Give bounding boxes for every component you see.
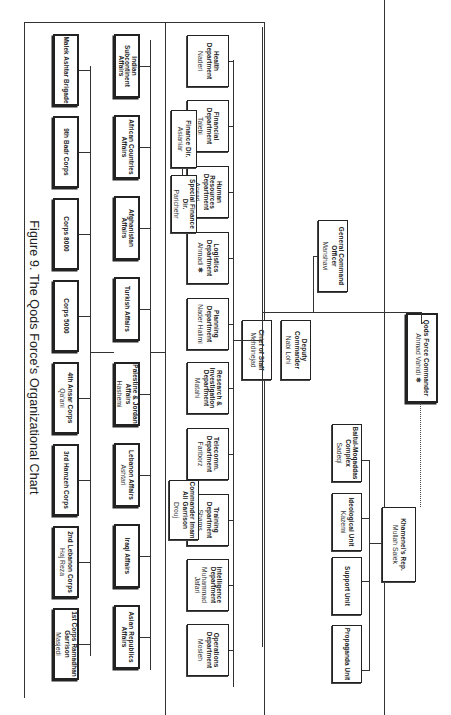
dept-title: Planning Department [205, 299, 218, 349]
corps-title: 4th Ansar Corps [67, 373, 74, 424]
corps-malek-ashtar[interactable]: Malek Ashtar Brigade [53, 34, 79, 106]
connector [234, 340, 262, 341]
khamenei-rep-title: Khamenei's Rep. [400, 518, 407, 571]
dotted-link [420, 403, 421, 507]
deputy-title: Deputy Commander [293, 321, 306, 379]
frame-bottom [24, 22, 25, 698]
dept-title: Logistics Department [205, 233, 218, 283]
department-health[interactable]: Health Department Naderi [187, 35, 229, 87]
connector [79, 316, 91, 317]
khamenei-rep-box[interactable]: Khamenei's Rep. Mullah Saiek [382, 507, 416, 582]
khamenei-unit-support[interactable]: Support Unit [332, 557, 362, 615]
chief-name: Mehdinejad [250, 332, 257, 367]
connector [140, 637, 151, 638]
dept-name: Naderi [197, 51, 204, 71]
connector [151, 352, 165, 353]
imam-ali-garrison-box[interactable]: Commander Imam Ali Garrison Drouj [169, 480, 199, 540]
finance-name: Parichehr [173, 189, 180, 218]
affairs-turkish[interactable]: Turkish Affairs [114, 277, 140, 341]
affairs-afghanistan[interactable]: Afghanistan Affairs [114, 196, 140, 260]
department-operations[interactable]: Operations Department Mosleh [187, 624, 229, 676]
unit-title: Ideological Unit [348, 497, 355, 546]
connector [140, 147, 151, 148]
dept-name: Mosleh [197, 639, 204, 661]
corps-8000[interactable]: Corps 8000 [53, 198, 79, 270]
dept-name: Ahmadi ✱ [197, 243, 204, 274]
dept-name: Muhammad Jafari [194, 560, 208, 610]
dept-title: Training Department [205, 495, 218, 545]
corps-title: Corps 8000 [63, 216, 70, 251]
corps-title: 1st Corps Ramadhan Garrison [63, 610, 76, 678]
affairs-asian-republics[interactable]: Asian Republics Affairs [114, 605, 140, 669]
connector [313, 256, 314, 313]
affairs-iraqi[interactable]: Iraqi Affairs [114, 524, 140, 588]
corps-1st-ramadhan[interactable]: 1st Corps Ramadhan Garrison Masjedi [53, 608, 79, 680]
divider-top [384, 0, 385, 715]
finance-name: Asianiar [177, 127, 184, 152]
connector [229, 585, 234, 586]
dept-name: Nader Halimi [197, 304, 204, 343]
corps-name: Qa'ani [59, 388, 66, 407]
connector [229, 61, 234, 62]
connector [79, 480, 91, 481]
connector [229, 650, 234, 651]
connector [229, 520, 234, 521]
khamenei-unit-propaganda[interactable]: Propaganda Unit [332, 625, 362, 683]
frame-left [25, 22, 265, 23]
corps-9th-badr[interactable]: 9th Badr Corps [53, 116, 79, 188]
connector [362, 460, 370, 461]
dept-title: Intelligence Department [209, 560, 222, 610]
connector [362, 581, 370, 582]
department-logistics[interactable]: Logistics Department Ahmadi ✱ [187, 232, 229, 284]
corps-3rd-hamzeh[interactable]: 3rd Hamzeh Corps [53, 444, 79, 516]
corps-name: Haj Reza [59, 548, 66, 576]
corps-title: 9th Badr Corps [63, 128, 70, 176]
connector [140, 475, 151, 476]
connector [369, 460, 370, 671]
dept-title: Health Department [205, 36, 218, 86]
corps-title: Malek Ashtar Brigade [63, 36, 70, 103]
corps-name: Masjedi [55, 632, 62, 655]
affairs-title: Lebanon Affairs [128, 450, 135, 500]
connector [229, 126, 234, 127]
corps-title: 2nd Lebanon Corps [67, 531, 74, 593]
department-intelligence[interactable]: Intelligence Department Muhammad Jafari [187, 559, 229, 611]
deputy-commander-box[interactable]: Deputy Commander Nabi Lohi [281, 320, 311, 380]
khamenei-unit-baitul-moqaddas[interactable]: Baitul-Moqaddas Complex Sadeqi [332, 424, 362, 482]
commander-box[interactable]: Qods Force Commander Ahmad Vahidi ✱ [406, 313, 438, 403]
chief-of-staff-box[interactable]: Chief of Staff Mehdinejad [242, 320, 272, 380]
connector [233, 60, 234, 687]
affairs-palestine-jordan[interactable]: Palestine & Jordan Affairs Hashemi [114, 362, 140, 426]
corps-2nd-lebanon[interactable]: 2nd Lebanon Corps Haj Reza [53, 526, 79, 598]
corps-4th-ansar[interactable]: 4th Ansar Corps Qa'ani [53, 362, 79, 434]
department-telecomm[interactable]: Telecomm. Department Fariborz [187, 428, 229, 480]
connector [421, 312, 422, 324]
connector [140, 309, 151, 310]
department-planning[interactable]: Planning Department Nader Halimi [187, 298, 229, 350]
connector [362, 670, 370, 671]
affairs-indian-subcontinent[interactable]: Indian Subcontinent Affairs [114, 34, 140, 98]
connector [79, 398, 91, 399]
department-research[interactable]: Research & Investigation Department Mata… [187, 362, 229, 414]
connector [229, 192, 234, 193]
connector [362, 518, 370, 519]
corps-5000[interactable]: Corps 5000 [53, 280, 79, 352]
general-command-title: General Command Officer [330, 221, 343, 291]
connector [229, 324, 234, 325]
finance-dir-box[interactable]: Finance Dir. Asianiar [171, 110, 197, 168]
khamenei-unit-ideological[interactable]: Ideological Unit Kazemi [332, 493, 362, 551]
org-chart: Qods Force Commander Ahmad Vahidi ✱ Kham… [0, 0, 451, 715]
imam-ali-title: Commander Imam Ali Garrison [181, 481, 194, 539]
dept-title: Telecomm. Department [205, 429, 218, 479]
deputy-name: Nabi Lohi [285, 336, 292, 365]
special-finance-dir-box[interactable]: Special Finance Dir. Parichehr [171, 175, 197, 233]
affairs-african-countries[interactable]: African Countries Affairs [114, 115, 140, 179]
general-command-box[interactable]: General Command Officer Manshavi [318, 220, 348, 292]
unit-title: Propaganda Unit [344, 628, 351, 681]
connector [79, 234, 91, 235]
dept-name: Talebi [197, 117, 204, 135]
connector [140, 556, 151, 557]
dept-name: Fariborz [197, 442, 204, 467]
affairs-lebanon[interactable]: Lebanon Affairs Ashtari [114, 443, 140, 507]
unit-name: Sadeqi [336, 442, 343, 463]
